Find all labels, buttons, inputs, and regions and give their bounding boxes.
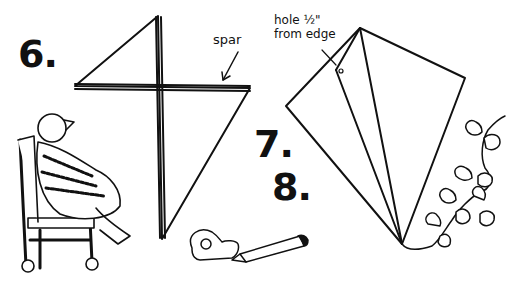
bird-on-chair — [18, 114, 130, 272]
tape-and-pencil — [191, 230, 308, 262]
kite-folded — [286, 28, 505, 250]
hole-label-line2: from edge — [274, 28, 336, 41]
step-number-7: 7. — [254, 122, 293, 166]
hole-label-line1: hole ½" — [274, 14, 321, 27]
step-number-6: 6. — [18, 32, 57, 76]
step-number-8: 8. — [272, 165, 311, 209]
spar-label: spar — [213, 33, 241, 46]
